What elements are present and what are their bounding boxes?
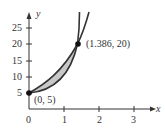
y-tick-5: 5 <box>17 88 22 98</box>
x-tick-0: 0 <box>26 115 31 125</box>
y-axis-arrow-icon <box>27 12 32 19</box>
y-tick-15: 15 <box>12 56 22 66</box>
annotation-point-0-5: (0, 5) <box>34 95 56 105</box>
x-tick-2: 2 <box>97 115 102 125</box>
y-axis-label: y <box>36 9 40 19</box>
y-tick-20: 20 <box>12 39 22 49</box>
plot-area <box>0 0 165 132</box>
x-tick-1: 1 <box>62 115 67 125</box>
y-tick-25: 25 <box>12 23 22 33</box>
point-0-5 <box>26 90 32 96</box>
x-axis-label: x <box>156 104 160 114</box>
y-tick-10: 10 <box>12 72 22 82</box>
point-1386-20 <box>75 41 81 47</box>
annotation-point-1386-20: (1.386, 20) <box>86 39 130 49</box>
x-tick-3: 3 <box>131 115 136 125</box>
